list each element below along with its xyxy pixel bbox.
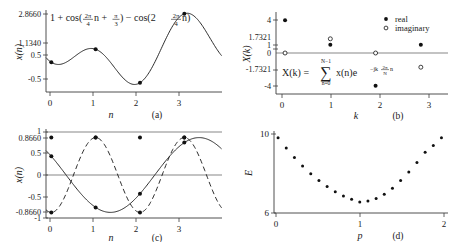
panel-c-xtick-3: 3: [177, 224, 182, 234]
panel-a-y-ticks: [43, 14, 48, 79]
panel-a-ytick-0: 2.8660: [18, 10, 41, 19]
panel-c-ylabel: x(n): [13, 166, 25, 184]
data-point-imaginary: [328, 37, 332, 41]
data-point: [277, 136, 280, 139]
panel-a-formula: 1 + cos( 2π 4 n + π 3 ) − cos(2 2π 4 n): [50, 12, 190, 27]
data-point: [309, 172, 312, 175]
data-point: [440, 136, 443, 139]
panel-c-components-plot: 1 0.8660 0.5 0 -0.5 -0.8660 -1 0 1 2 3 n…: [0, 121, 226, 242]
data-point: [366, 200, 369, 203]
figure-panel-grid: 2.8660 1.1340 0.5 -0.5 0 1 2 3 n x(n) (a…: [0, 0, 452, 242]
panel-d-xlabel: p: [357, 230, 363, 241]
data-point: [182, 12, 186, 16]
legend-real-marker-icon: [384, 17, 388, 21]
panel-a-signal-plot: 2.8660 1.1340 0.5 -0.5 0 1 2 3 n x(n) (a…: [0, 0, 226, 121]
panel-a-formula-frac1-den: 4: [86, 20, 90, 27]
data-point: [317, 179, 320, 182]
panel-b-xtick-2: 2: [378, 100, 383, 110]
data-point: [138, 81, 142, 85]
panel-b-legend: real imaginary: [384, 14, 430, 33]
panel-c-xtick-2: 2: [134, 224, 139, 234]
panel-d-y-ticks: [271, 134, 276, 213]
panel-a-formula-mid2: ) − cos(2: [120, 12, 156, 24]
data-point: [49, 60, 53, 64]
data-point: [94, 205, 98, 209]
panel-d-ytick-0: 10: [260, 129, 270, 139]
panel-b-ytick-5: -4: [264, 82, 271, 91]
panel-b-sum-lower: n=0: [322, 80, 331, 86]
panel-c-ytick-2: 0.5: [31, 149, 41, 158]
data-point: [94, 47, 98, 51]
data-point: [94, 136, 98, 140]
panel-a-ytick-3: -0.5: [28, 75, 41, 84]
data-point-real: [419, 43, 423, 47]
panel-d-xtick-0: 0: [274, 219, 279, 229]
panel-a-curve: [46, 13, 222, 84]
panel-b-formula-term: x(n)e: [336, 67, 358, 79]
data-point-real: [374, 84, 378, 88]
panel-c-ytick-1: 0.8660: [18, 134, 41, 143]
panel-d-svg: 10 6 0 1 2 p E (d): [226, 121, 452, 242]
panel-b-ylabel: X(k): [241, 45, 253, 64]
panel-a-svg: 2.8660 1.1340 0.5 -0.5 0 1 2 3 n x(n) (a…: [0, 0, 226, 121]
panel-c-tag: (c): [152, 233, 163, 242]
panel-b-xtick-0: 0: [280, 100, 285, 110]
panel-b-ytick-0: 4: [267, 16, 271, 25]
panel-a-x-ticks: [50, 92, 179, 96]
panel-a-xtick-0: 0: [48, 98, 53, 108]
panel-c-xtick-0: 0: [48, 224, 53, 234]
panel-b-xtick-3: 3: [427, 100, 432, 110]
panel-a-ylabel: x(n): [13, 43, 25, 61]
panel-d-ylabel: E: [243, 170, 254, 177]
data-point: [358, 200, 361, 203]
data-point: [293, 156, 296, 159]
data-point: [342, 194, 345, 197]
panel-a-xtick-1: 1: [91, 98, 96, 108]
panel-a-tag: (a): [152, 110, 163, 121]
panel-a-formula-frac1-num: 2π: [85, 12, 92, 19]
panel-b-dft-plot: 4 1.7321 1 0 -1.7321 -4 0 1 2 3 k X(k) (…: [226, 0, 452, 121]
data-point: [301, 165, 304, 168]
data-point: [182, 141, 186, 145]
panel-c-y-ticks: [43, 132, 48, 218]
panel-b-exp-tail: n: [390, 66, 393, 72]
panel-b-formula-lhs: X(k) =: [282, 67, 309, 79]
panel-c-ytick-6: -1: [34, 214, 41, 223]
panel-a-ytick-2: 0.5: [31, 51, 41, 60]
panel-c-svg: 1 0.8660 0.5 0 -0.5 -0.8660 -1 0 1 2 3 n…: [0, 121, 226, 242]
data-point: [407, 171, 410, 174]
panel-a-formula-frac2-num: π: [114, 12, 118, 19]
panel-d-x-ticks: [276, 213, 444, 217]
data-point: [350, 198, 353, 201]
data-point: [334, 190, 337, 193]
panel-d-axes: [274, 131, 448, 213]
data-point: [49, 136, 53, 140]
panel-b-tag: (b): [392, 111, 403, 121]
panel-b-xtick-1: 1: [329, 100, 334, 110]
panel-d-xtick-2: 2: [442, 219, 447, 229]
data-point: [399, 179, 402, 182]
panel-a-formula-mid1: n +: [94, 12, 108, 23]
panel-b-ytick-4: -1.7321: [246, 65, 271, 74]
data-point-real: [283, 18, 287, 22]
panel-d-tag: (d): [392, 231, 403, 242]
panel-b-exp-den: N: [383, 71, 387, 76]
panel-b-x-ticks: [282, 94, 429, 98]
panel-b-xlabel: k: [354, 110, 359, 121]
panel-c-ytick-4: -0.5: [28, 193, 41, 202]
data-point: [138, 136, 142, 140]
data-point-imaginary: [419, 65, 423, 69]
panel-d-error-plot: 10 6 0 1 2 p E (d): [226, 121, 452, 242]
data-point: [49, 154, 53, 158]
panel-c-xtick-1: 1: [91, 224, 96, 234]
panel-c-ytick-3: 0: [37, 171, 41, 180]
data-point: [383, 193, 386, 196]
legend-imaginary-label: imaginary: [395, 23, 430, 33]
data-point: [432, 144, 435, 147]
panel-b-exp-lead: −jk: [370, 66, 378, 72]
panel-d-data-markers: [277, 136, 443, 203]
panel-a-xtick-2: 2: [134, 98, 139, 108]
data-point-imaginary: [283, 51, 287, 55]
panel-a-formula-frac2-den: 3: [114, 20, 117, 27]
data-point: [49, 210, 53, 214]
